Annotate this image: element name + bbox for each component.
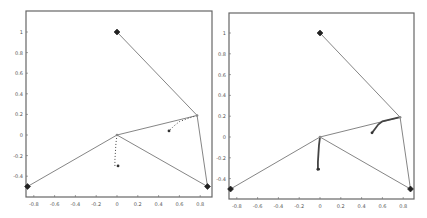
x-tick-label: 0.4: [358, 203, 366, 209]
x-tick-label: 0.4: [155, 201, 163, 207]
x-tick-label: -0.4: [274, 203, 284, 209]
chart-left: -0.8-0.6-0.4-0.200.20.40.60.810.80.60.40…: [0, 0, 214, 218]
x-tick-label: 0.8: [399, 203, 407, 209]
trajectory-line: [115, 135, 117, 166]
link-line: [117, 32, 197, 115]
trajectory-line: [169, 115, 197, 130]
plot-frame: [229, 13, 414, 199]
y-tick-label: -0.4: [13, 173, 23, 179]
anchor-diamond-icon: [204, 184, 210, 190]
y-tick-label: 1: [20, 29, 23, 35]
link-line: [117, 115, 197, 135]
y-tick-label: 0.8: [218, 51, 226, 57]
x-tick-label: 0: [318, 203, 321, 209]
y-tick-label: 0.6: [15, 70, 23, 76]
x-tick-label: 0.2: [134, 201, 142, 207]
y-tick-label: 0.4: [218, 92, 226, 98]
joint-dot: [319, 136, 322, 139]
y-tick-label: -0.2: [216, 155, 226, 161]
y-tick-label: 0.8: [15, 50, 23, 56]
y-tick-label: 0: [20, 132, 23, 138]
x-tick-label: -0.4: [71, 201, 81, 207]
y-tick-label: 0.6: [218, 72, 226, 78]
x-tick-label: 0.6: [175, 201, 183, 207]
x-tick-label: -0.6: [50, 201, 60, 207]
y-tick-label: 0.4: [15, 91, 23, 97]
y-tick-label: 0: [223, 134, 226, 140]
link-line: [28, 135, 117, 187]
x-tick-label: -0.6: [253, 203, 263, 209]
y-tick-label: 0.2: [218, 113, 226, 119]
joint-dot: [399, 116, 402, 119]
x-tick-label: -0.8: [232, 203, 242, 209]
x-tick-label: -0.2: [294, 203, 304, 209]
x-tick-label: 0.2: [337, 203, 345, 209]
target-marker: [317, 168, 320, 171]
x-tick-label: 0: [115, 201, 118, 207]
chart-right: -0.8-0.6-0.4-0.200.20.40.60.810.80.60.40…: [213, 0, 427, 218]
trajectory-line: [372, 117, 400, 133]
joint-dot: [196, 114, 199, 117]
left-plot-svg: -0.8-0.6-0.4-0.200.20.40.60.810.80.60.40…: [0, 0, 214, 218]
y-tick-label: 1: [223, 30, 226, 36]
target-marker: [371, 131, 374, 134]
x-tick-label: 0.8: [196, 201, 204, 207]
link-line: [197, 115, 207, 186]
y-tick-label: -0.4: [216, 176, 226, 182]
target-marker: [168, 129, 171, 132]
trajectory-line: [318, 137, 320, 169]
link-line: [400, 117, 410, 189]
x-tick-label: -0.2: [91, 201, 101, 207]
link-line: [231, 137, 320, 189]
x-tick-label: 0.6: [378, 203, 386, 209]
right-plot-svg: -0.8-0.6-0.4-0.200.20.40.60.810.80.60.40…: [213, 0, 427, 218]
plot-frame: [26, 11, 212, 197]
y-tick-label: -0.2: [13, 153, 23, 159]
link-line: [320, 33, 400, 117]
link-line: [117, 135, 207, 187]
joint-dot: [116, 134, 119, 137]
x-tick-label: -0.8: [29, 201, 39, 207]
target-marker: [117, 165, 120, 168]
anchor-diamond-icon: [407, 186, 413, 192]
y-tick-label: 0.2: [15, 111, 23, 117]
link-line: [320, 137, 410, 189]
